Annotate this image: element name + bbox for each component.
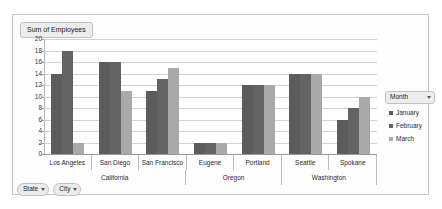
legend-swatch-icon [389,137,393,141]
field-buttons: StateCity [17,183,81,196]
category-axis: Los AngelesSan DiegoSan FranciscoEugeneP… [44,154,377,184]
city-label-row: Los AngelesSan DiegoSan FranciscoEugeneP… [44,155,377,170]
bar[interactable] [157,79,168,154]
chevron-down-icon [427,96,431,99]
bar[interactable] [99,62,110,154]
bar[interactable] [289,74,300,155]
y-axis-tick-label: 18 [12,48,42,54]
bar-group [187,39,235,154]
bar[interactable] [216,143,227,155]
bar[interactable] [300,74,311,155]
state-label-row: CaliforniaOregonWashington [44,170,377,185]
legend-field-button-month[interactable]: Month [385,91,435,104]
y-axis-tick-label: 2 [12,140,42,146]
legend-swatch-icon [389,111,393,115]
bar-group [234,39,282,154]
bar-group [139,39,187,154]
bar-group [282,39,330,154]
field-button-label: City [59,185,70,193]
y-axis-tick-label: 8 [12,105,42,111]
city-axis-label: Seattle [282,155,330,170]
bar-series-container [44,39,377,154]
bar[interactable] [348,108,359,154]
city-axis-label: Spokane [329,155,377,170]
bar-group [329,39,377,154]
bar[interactable] [205,143,216,155]
legend-header-label: Month [390,93,408,101]
y-axis-tick-label: 0 [12,151,42,157]
bar[interactable] [168,68,179,154]
bar[interactable] [73,143,84,155]
y-axis-tick-label: 12 [12,82,42,88]
field-button-label: State [23,185,38,193]
city-axis-label: Portland [234,155,282,170]
legend-item: March [385,135,437,143]
y-axis-tick-label: 14 [12,71,42,77]
city-axis-label: San Francisco [139,155,187,170]
chevron-down-icon [73,188,77,191]
bar[interactable] [242,85,253,154]
bar[interactable] [337,120,348,155]
legend-item-label: March [396,135,414,143]
bar[interactable] [311,74,322,155]
bar-group [92,39,140,154]
field-button-state[interactable]: State [17,183,49,196]
y-axis-tick-label: 16 [12,59,42,65]
legend-item-label: February [396,122,422,130]
legend-item-label: January [396,109,419,117]
field-button-city[interactable]: City [53,183,81,196]
legend: Month JanuaryFebruaryMarch [385,91,437,143]
bar[interactable] [62,51,73,155]
bar[interactable] [264,85,275,154]
pivot-chart-screenshot: Sum of Employees 20181614121086420 Los A… [0,0,442,209]
bar[interactable] [359,97,370,155]
state-axis-label: Washington [282,170,377,185]
bar[interactable] [194,143,205,155]
bar[interactable] [121,91,132,154]
legend-swatch-icon [389,124,393,128]
bar[interactable] [51,74,62,155]
state-axis-label: Oregon [186,170,281,185]
y-axis-tick-label: 20 [12,36,42,42]
city-axis-label: San Diego [92,155,140,170]
bar[interactable] [253,85,264,154]
bar-group [44,39,92,154]
legend-item: February [385,122,437,130]
plot-area: 20181614121086420 [44,39,377,154]
legend-items: JanuaryFebruaryMarch [385,109,437,143]
y-axis-tick-label: 10 [12,94,42,100]
bar[interactable] [110,62,121,154]
bar[interactable] [146,91,157,154]
legend-item: January [385,109,437,117]
city-axis-label: Eugene [187,155,235,170]
y-axis-tick-label: 6 [12,117,42,123]
y-axis-tick-label: 4 [12,128,42,134]
city-axis-label: Los Angeles [44,155,92,170]
chevron-down-icon [41,188,45,191]
chart-frame: Sum of Employees 20181614121086420 Los A… [12,14,429,195]
